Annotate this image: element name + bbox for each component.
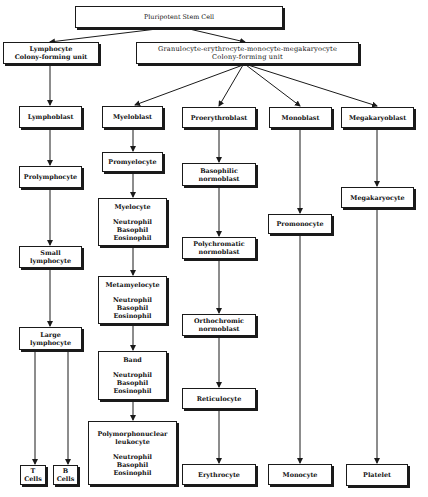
node-label: Myelocyte xyxy=(114,203,150,211)
node-erythrocyte: Erythrocyte xyxy=(182,464,256,485)
node-label: Proerythroblast xyxy=(191,114,247,122)
hematopoiesis-diagram: Pluripotent Stem Cell Lymphocyte Colony-… xyxy=(0,0,428,497)
node-small-lymphocyte: Small lymphocyte xyxy=(19,246,82,268)
node-sublabel: Neutrophil Basophil Eosinophil xyxy=(113,453,152,477)
node-megakaryocyte: Megakaryocyte xyxy=(341,187,414,208)
node-orthochromic-normoblast: Orthochromic normoblast xyxy=(182,314,256,336)
node-label: Lymphoblast xyxy=(28,113,74,121)
node-polymorphonuclear-leukocyte: Polymorphonuclear leukocyte Neutrophil B… xyxy=(88,421,177,485)
node-band: Band Neutrophil Basophil Eosinophil xyxy=(98,351,167,400)
node-monoblast: Monoblast xyxy=(269,107,332,128)
node-prolymphocyte: Prolymphocyte xyxy=(19,166,82,188)
node-label: Megakaryoblast xyxy=(349,114,406,122)
node-platelet: Platelet xyxy=(346,464,408,486)
node-label: Orthochromic normoblast xyxy=(194,317,244,333)
node-label: Metamyelocyte xyxy=(105,281,159,289)
node-label: Reticulocyte xyxy=(197,395,242,403)
node-monocyte: Monocyte xyxy=(268,464,332,485)
node-megakaryoblast: Megakaryoblast xyxy=(341,107,414,128)
node-lymphocyte-cfu: Lymphocyte Colony-forming unit xyxy=(3,42,99,64)
node-label: Myeloblast xyxy=(113,113,152,121)
node-gemm-cfu: Granulocyte-erythrocyte-monocyte-megakar… xyxy=(136,42,359,64)
node-label: B Cells xyxy=(57,467,75,483)
node-reticulocyte: Reticulocyte xyxy=(182,388,256,409)
node-polychromatic-normoblast: Polychromatic normoblast xyxy=(182,237,256,259)
node-label: Pluripotent Stem Cell xyxy=(144,13,214,21)
node-large-lymphocyte: Large lymphocyte xyxy=(19,327,82,350)
node-label: Small lymphocyte xyxy=(22,249,79,265)
node-b-cells: B Cells xyxy=(53,465,78,485)
node-label: Megakaryocyte xyxy=(350,194,404,202)
node-pluripotent-stem-cell: Pluripotent Stem Cell xyxy=(75,6,283,28)
node-label: Polymorphonuclear leukocyte xyxy=(98,430,168,446)
node-label: Promonocyte xyxy=(277,220,324,228)
node-label: Monocyte xyxy=(283,471,318,479)
node-label: Large lymphocyte xyxy=(30,331,71,347)
node-label: Granulocyte-erythrocyte-monocyte-megakar… xyxy=(158,45,337,61)
node-promonocyte: Promonocyte xyxy=(268,214,332,234)
node-lymphoblast: Lymphoblast xyxy=(19,106,82,128)
node-sublabel: Neutrophil Basophil Eosinophil xyxy=(113,218,152,242)
node-label: Band xyxy=(123,356,142,364)
node-label: Polychromatic normoblast xyxy=(193,240,244,256)
node-basophilic-normoblast: Basophilic normoblast xyxy=(182,163,256,186)
node-proerythroblast: Proerythroblast xyxy=(182,107,256,128)
node-label: Erythrocyte xyxy=(198,471,240,479)
node-label: Basophilic normoblast xyxy=(199,167,240,183)
node-label: Promyelocyte xyxy=(108,158,156,166)
node-promyelocyte: Promyelocyte xyxy=(102,152,163,172)
node-sublabel: Neutrophil Basophil Eosinophil xyxy=(113,371,152,395)
node-label: Lymphocyte Colony-forming unit xyxy=(15,45,88,61)
node-label: Monoblast xyxy=(282,114,320,122)
node-label: Prolymphocyte xyxy=(24,173,77,181)
node-label: T Cells xyxy=(24,467,42,483)
node-label: Platelet xyxy=(363,471,391,479)
node-sublabel: Neutrophil Basophil Eosinophil xyxy=(113,296,152,320)
node-myeloblast: Myeloblast xyxy=(102,106,163,128)
node-metamyelocyte: Metamyelocyte Neutrophil Basophil Eosino… xyxy=(98,276,167,324)
node-myelocyte: Myelocyte Neutrophil Basophil Eosinophil xyxy=(98,198,167,246)
node-t-cells: T Cells xyxy=(20,465,46,485)
